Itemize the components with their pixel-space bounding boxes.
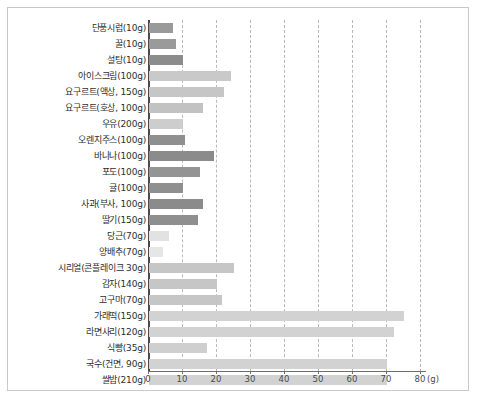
bar-row: 감자(140g) — [8, 276, 470, 292]
x-tick-label-20: 20 — [211, 374, 222, 384]
category-label: 오렌지주스(100g) — [0, 132, 146, 148]
category-label: 양배추(70g) — [0, 244, 146, 260]
bar-row: 우유(200g) — [8, 116, 470, 132]
bar-row: 국수(건면, 90g) — [8, 356, 470, 372]
category-label: 감자(140g) — [0, 276, 146, 292]
bar-row: 사과(부사, 100g) — [8, 196, 470, 212]
category-label: 라면사리(120g) — [0, 324, 146, 340]
category-label: 고구마(70g) — [0, 292, 146, 308]
category-label: 식빵(35g) — [0, 340, 146, 356]
category-label: 가래떡(150g) — [0, 308, 146, 324]
bar-row: 식빵(35g) — [8, 340, 470, 356]
bar-row: 쌀밥(210g) — [8, 372, 470, 388]
bar-row: 요구르트(호상, 100g) — [8, 100, 470, 116]
category-label: 아이스크림(100g) — [0, 68, 146, 84]
bar-row: 딸기(150g) — [8, 212, 470, 228]
bar-row: 라면사리(120g) — [8, 324, 470, 340]
category-label: 단풍시럽(10g) — [0, 20, 146, 36]
bar — [149, 327, 394, 337]
bar — [149, 87, 224, 97]
category-label: 사과(부사, 100g) — [0, 196, 146, 212]
category-label: 쌀밥(210g) — [0, 372, 146, 388]
category-label: 바나나(100g) — [0, 148, 146, 164]
bar — [149, 103, 203, 113]
bar-row: 가래떡(150g) — [8, 308, 470, 324]
category-label: 귤(100g) — [0, 180, 146, 196]
bar-row: 고구마(70g) — [8, 292, 470, 308]
bar — [149, 55, 183, 65]
x-tick-label-30: 30 — [245, 374, 256, 384]
bar-row: 바나나(100g) — [8, 148, 470, 164]
bar — [149, 119, 183, 129]
category-label: 시리얼(콘플레이크 30g) — [0, 260, 146, 276]
category-label: 당근(70g) — [0, 228, 146, 244]
bar — [149, 263, 234, 273]
category-label: 딸기(150g) — [0, 212, 146, 228]
bar-row: 당근(70g) — [8, 228, 470, 244]
bar-chart: 단풍시럽(10g)꿀(10g)설탕(10g)아이스크림(100g)요구르트(액상… — [8, 8, 470, 392]
category-label: 요구르트(액상, 150g) — [0, 84, 146, 100]
bar — [149, 39, 176, 49]
bar-row: 설탕(10g) — [8, 52, 470, 68]
chart-frame: 단풍시럽(10g)꿀(10g)설탕(10g)아이스크림(100g)요구르트(액상… — [7, 7, 469, 391]
x-axis-unit-label: (g) — [427, 374, 439, 384]
bar-row: 시리얼(콘플레이크 30g) — [8, 260, 470, 276]
bar — [149, 343, 207, 353]
bar — [149, 199, 203, 209]
bar — [149, 279, 217, 289]
bar — [149, 23, 173, 33]
x-tick-label-10: 10 — [177, 374, 188, 384]
bar — [149, 311, 404, 321]
category-label: 설탕(10g) — [0, 52, 146, 68]
bar — [149, 295, 222, 305]
bar-row: 단풍시럽(10g) — [8, 20, 470, 36]
category-label: 꿀(10g) — [0, 36, 146, 52]
bar-row: 양배추(70g) — [8, 244, 470, 260]
bar — [149, 151, 214, 161]
bar-row: 아이스크림(100g) — [8, 68, 470, 84]
bar-row: 오렌지주스(100g) — [8, 132, 470, 148]
bar — [149, 231, 169, 241]
category-label: 포도(100g) — [0, 164, 146, 180]
x-tick-label-40: 40 — [279, 374, 290, 384]
bar — [149, 359, 387, 369]
category-label: 우유(200g) — [0, 116, 146, 132]
bar-row: 요구르트(액상, 150g) — [8, 84, 470, 100]
category-label: 요구르트(호상, 100g) — [0, 100, 146, 116]
bar — [149, 183, 183, 193]
bar-row: 귤(100g) — [8, 180, 470, 196]
x-tick-label-0: 0 — [145, 374, 150, 384]
bar-row: 포도(100g) — [8, 164, 470, 180]
x-tick-label-70: 70 — [381, 374, 392, 384]
bar — [149, 247, 163, 257]
x-tick-label-50: 50 — [313, 374, 324, 384]
bar — [149, 135, 185, 145]
category-label: 국수(건면, 90g) — [0, 356, 146, 372]
bar — [149, 215, 198, 225]
x-tick-label-80: 80 — [415, 374, 426, 384]
bar — [149, 71, 231, 81]
x-tick-label-60: 60 — [347, 374, 358, 384]
bar-row: 꿀(10g) — [8, 36, 470, 52]
bar — [149, 167, 200, 177]
